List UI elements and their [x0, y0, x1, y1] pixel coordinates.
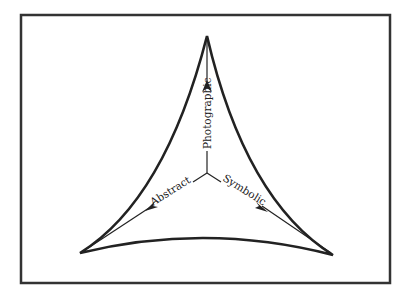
abstract-label: Abstract: [147, 173, 193, 208]
triangle-diagram: Photographic Abstract Symbolic: [0, 0, 412, 299]
photographic-label: Photographic: [201, 77, 213, 149]
symbolic-label: Symbolic: [221, 172, 269, 208]
symbolic-axis-stem: [207, 173, 221, 182]
abstract-axis-stem: [193, 173, 207, 182]
